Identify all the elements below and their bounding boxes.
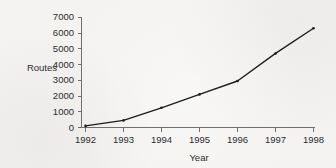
series-markers: [84, 27, 315, 127]
x-axis-ticks: [86, 128, 314, 133]
data-point: [198, 93, 201, 96]
line-chart: 0 1000 2000 3000 4000 5000 6000 7000 199…: [0, 0, 336, 168]
x-axis-title: Year: [189, 152, 208, 163]
x-tick-label: 1994: [151, 134, 172, 145]
data-point: [84, 125, 87, 128]
x-tick-label: 1993: [113, 134, 134, 145]
chart-page: 0 1000 2000 3000 4000 5000 6000 7000 199…: [0, 0, 336, 168]
data-point: [274, 52, 277, 55]
data-point: [160, 107, 163, 110]
y-tick-label: 0: [69, 122, 74, 133]
y-tick-label: 6000: [53, 27, 74, 38]
y-axis-ticks: [78, 17, 82, 127]
y-tick-label: 1000: [53, 106, 74, 117]
x-axis-tick-labels: 1992 1993 1994 1995 1996 1997 1998: [75, 134, 324, 145]
y-tick-label: 3000: [53, 74, 74, 85]
x-tick-label: 1995: [189, 134, 210, 145]
x-tick-label: 1996: [227, 134, 248, 145]
data-point: [236, 80, 239, 83]
x-tick-label: 1997: [265, 134, 286, 145]
y-tick-label: 5000: [53, 43, 74, 54]
y-tick-label: 2000: [53, 90, 74, 101]
series-line-routes: [86, 28, 314, 126]
x-tick-label: 1998: [303, 134, 324, 145]
x-tick-label: 1992: [75, 134, 96, 145]
y-tick-label: 7000: [53, 11, 74, 22]
data-point: [122, 119, 125, 122]
data-point: [312, 27, 315, 30]
y-axis-title: Routes: [27, 62, 57, 73]
